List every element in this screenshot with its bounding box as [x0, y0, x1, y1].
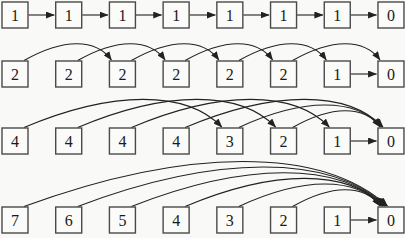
node-value-row4-3: 5	[118, 212, 126, 229]
arrow-row3-3-to-7	[185, 99, 383, 127]
node-value-row2-5: 2	[226, 66, 234, 83]
node-value-row1-6: 1	[280, 7, 288, 24]
arrow-row2-2-to-4	[131, 44, 218, 61]
arrow-row3-1-to-5	[78, 99, 276, 127]
node-value-row2-3: 2	[118, 66, 126, 83]
node-value-row3-5: 3	[226, 133, 234, 150]
node-value-row3-4: 4	[172, 133, 180, 150]
arrow-row3-0-to-4	[24, 99, 222, 127]
diagram-canvas: 11111110222222104444321076543210	[0, 0, 405, 238]
node-value-row3-2: 4	[65, 133, 73, 150]
node-value-row4-5: 3	[226, 212, 234, 229]
node-value-row2-6: 2	[280, 66, 288, 83]
node-value-row2-4: 2	[172, 66, 180, 83]
arrow-row2-5-to-7	[293, 44, 380, 61]
node-value-row4-4: 4	[172, 212, 180, 229]
node-value-row1-1: 1	[11, 7, 19, 24]
node-value-row4-7: 1	[333, 212, 341, 229]
node-value-row4-8: 0	[387, 212, 395, 229]
node-value-row3-7: 1	[333, 133, 341, 150]
arrow-row2-3-to-5	[185, 44, 272, 61]
node-value-row3-8: 0	[387, 133, 395, 150]
node-value-row3-6: 2	[280, 133, 288, 150]
node-value-row1-2: 1	[65, 7, 73, 24]
node-value-row1-7: 1	[333, 7, 341, 24]
node-value-row3-1: 4	[11, 133, 19, 150]
arrow-row2-0-to-2	[24, 44, 111, 61]
node-value-row1-5: 1	[226, 7, 234, 24]
arrow-row2-4-to-6	[239, 44, 326, 61]
node-value-row2-1: 2	[11, 66, 19, 83]
node-value-row4-1: 7	[11, 212, 19, 229]
jump-distance-diagram: 11111110222222104444321076543210	[0, 0, 405, 238]
arrow-row4-1-to-7	[78, 167, 386, 206]
node-value-row4-6: 2	[280, 212, 288, 229]
node-value-row1-3: 1	[118, 7, 126, 24]
node-value-row1-4: 1	[172, 7, 180, 24]
node-value-row3-3: 4	[118, 133, 126, 150]
node-value-row2-8: 0	[387, 66, 395, 83]
node-value-row2-2: 2	[65, 66, 73, 83]
arrow-row3-4-to-7	[239, 105, 382, 127]
node-value-row2-7: 1	[333, 66, 341, 83]
arrow-row2-1-to-3	[78, 44, 165, 61]
node-value-row4-2: 6	[65, 212, 73, 229]
arrow-row3-5-to-7	[293, 111, 380, 128]
node-value-row1-8: 0	[387, 7, 395, 24]
